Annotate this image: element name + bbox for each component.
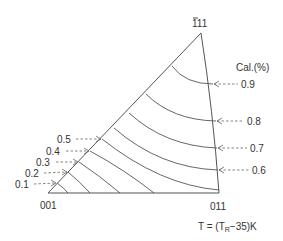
right-label-0.7: 0.7 — [250, 143, 264, 154]
contour-0.2 — [68, 172, 90, 193]
right-arrows — [214, 81, 249, 173]
right-label-0.9: 0.9 — [241, 79, 255, 90]
contour-curves — [57, 66, 219, 193]
left-label-0.1: 0.1 — [15, 179, 29, 190]
bottom-right-corner-label: 011 — [210, 201, 226, 212]
left-label-0.4: 0.4 — [46, 146, 60, 157]
contour-0.4 — [90, 151, 154, 193]
bottom-left-corner-label: 001 — [40, 200, 57, 211]
formula-prefix: T = (T — [198, 221, 225, 232]
contour-0.1 — [57, 183, 68, 193]
legend-title: Cal.(%) — [236, 62, 269, 73]
left-label-0.2: 0.2 — [25, 168, 39, 179]
right-label-0.8: 0.8 — [247, 116, 261, 127]
contour-0.8 — [146, 94, 216, 121]
right-label-0.6: 0.6 — [252, 165, 266, 176]
formula-suffix: −35)K — [230, 221, 257, 232]
apex-label: 111 — [192, 18, 208, 29]
temperature-formula: T = (TR−35)K — [198, 221, 257, 233]
left-label-0.5: 0.5 — [57, 134, 71, 145]
triangle-outline — [48, 33, 219, 193]
contour-0.7 — [129, 113, 217, 148]
contour-0.6 — [114, 128, 218, 170]
left-label-0.3: 0.3 — [36, 157, 50, 168]
stereographic-triangle-figure: 0.1 0.2 0.3 0.4 0.5 0.9 0.8 0.7 0.6 Cal.… — [0, 0, 283, 241]
left-edge — [48, 33, 201, 193]
